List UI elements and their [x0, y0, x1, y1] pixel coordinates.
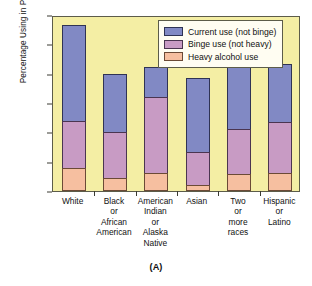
- x-category-label-5: HispanicorLatino: [250, 196, 308, 227]
- legend-swatch-current-use: [164, 27, 183, 36]
- plot-area: Current use (not binge) Binge use (not h…: [52, 16, 300, 192]
- bar-american-indian-or-alaska-native: [144, 67, 168, 191]
- bar-segment-current: [144, 67, 168, 97]
- bar-segment-binge: [186, 152, 210, 185]
- bar-segment-heavy: [62, 168, 86, 191]
- chart-legend: Current use (not binge) Binge use (not h…: [158, 20, 283, 68]
- legend-label-current-use: Current use (not binge): [188, 27, 276, 37]
- bar-segment-binge: [103, 132, 127, 179]
- figure-caption: (A): [0, 262, 312, 272]
- bar-segment-binge: [227, 129, 251, 174]
- legend-label-heavy-use: Heavy alcohol use: [188, 52, 258, 62]
- alcohol-use-bar-chart: Percentage Using in Past Month 010203040…: [0, 0, 312, 286]
- bar-segment-heavy: [227, 174, 251, 191]
- bar-segment-current: [268, 64, 292, 121]
- bar-segment-current: [62, 25, 86, 121]
- bar-asian: [186, 78, 210, 191]
- legend-item-heavy-use: Heavy alcohol use: [164, 51, 276, 63]
- bar-segment-binge: [62, 121, 86, 168]
- bar-segment-heavy: [103, 178, 127, 191]
- bar-segment-current: [103, 74, 127, 132]
- bar-segment-heavy: [144, 173, 168, 191]
- bar-white: [62, 25, 86, 191]
- bar-two-or-more-races: [227, 56, 251, 191]
- legend-item-binge-use: Binge use (not heavy): [164, 38, 276, 50]
- legend-label-binge-use: Binge use (not heavy): [188, 39, 272, 49]
- bar-black-or-african-american: [103, 74, 127, 191]
- bar-segment-current: [186, 78, 210, 153]
- bar-hispanic-or-latino: [268, 64, 292, 191]
- legend-item-current-use: Current use (not binge): [164, 26, 276, 38]
- bar-segment-heavy: [186, 185, 210, 191]
- bar-segment-binge: [268, 122, 292, 173]
- y-axis-title: Percentage Using in Past Month: [19, 0, 33, 111]
- bar-segment-heavy: [268, 173, 292, 191]
- legend-swatch-binge-use: [164, 40, 183, 49]
- legend-swatch-heavy-use: [164, 52, 183, 61]
- bar-segment-binge: [144, 97, 168, 174]
